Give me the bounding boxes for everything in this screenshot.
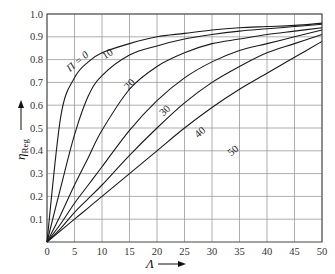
curve-label: 40 [192,125,207,140]
curve-label: Π = 0 [64,49,92,75]
x-axis-title: Λ [144,256,154,271]
curve-label: 50 [225,143,240,158]
curve-labels: Π = 01020304050 [64,46,241,158]
x-tick-label: 30 [207,246,218,257]
curve-label: 20 [122,77,137,92]
x-axis-ticks: 05101520253035404550 [44,246,327,257]
x-tick-label: 15 [124,246,135,257]
y-axis-ticks: 0.10.20.30.40.50.60.70.80.91.0 [30,9,44,225]
y-axis-title: ηReg [13,139,30,160]
y-axis-label: ηReg [13,100,30,160]
y-arrowhead-icon [18,100,24,108]
x-tick-label: 40 [262,246,273,257]
x-axis-label: Λ [144,256,186,271]
y-tick-label: 1.0 [30,9,43,20]
y-tick-label: 0.3 [30,168,43,179]
y-tick-label: 0.1 [30,214,43,225]
x-tick-label: 5 [72,246,77,257]
y-tick-label: 0.4 [30,145,44,156]
x-tick-label: 25 [179,246,190,257]
regenerator-efficiency-chart: Π = 01020304050 05101520253035404550 0.1… [0,0,335,274]
x-tick-label: 45 [289,246,300,257]
x-tick-label: 50 [317,246,328,257]
x-arrowhead-icon [178,261,186,267]
y-tick-label: 0.6 [30,100,43,111]
y-tick-label: 0.9 [30,31,43,42]
y-tick-label: 0.2 [30,191,43,202]
x-tick-label: 35 [234,246,245,257]
y-tick-label: 0.5 [30,123,43,134]
y-tick-label: 0.7 [30,77,43,88]
y-tick-label: 0.8 [30,54,43,65]
x-tick-label: 0 [44,246,49,257]
x-tick-label: 10 [97,246,108,257]
